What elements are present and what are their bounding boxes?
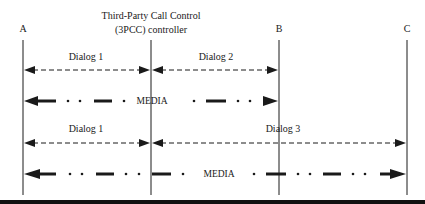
controller-title-line1: Third-Party Call Control — [102, 10, 201, 22]
participant-a-label: A — [19, 23, 26, 35]
dialog3-label: Dialog 3 — [266, 123, 301, 135]
participant-c-label: C — [404, 23, 411, 35]
media-bottom-label: MEDIA — [203, 168, 234, 180]
dialog1-top-arrow — [24, 66, 150, 74]
dialog1-top-label: Dialog 1 — [69, 51, 104, 63]
participant-b-label: B — [276, 23, 283, 35]
bottom-border — [0, 200, 425, 204]
controller-title-line2: (3PCC) controller — [115, 24, 187, 36]
dialog1-bottom-label: Dialog 1 — [69, 123, 104, 135]
media-top-label: MEDIA — [136, 95, 167, 107]
dialog2-arrow — [152, 66, 278, 74]
dialog1-bottom-arrow — [24, 139, 150, 147]
dialog2-label: Dialog 2 — [199, 51, 234, 63]
